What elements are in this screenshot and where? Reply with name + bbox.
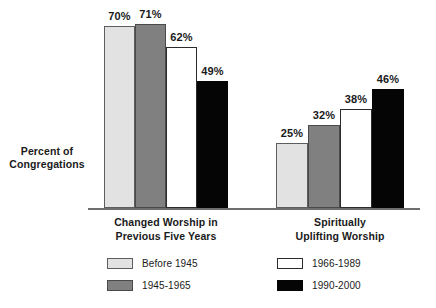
legend-label: 1990-2000 [312, 280, 361, 291]
bar-value-label: 46% [366, 73, 410, 85]
legend-item-1990-2000: 1990-2000 [277, 280, 361, 291]
group-label-1: Changed Worship inPrevious Five Years [81, 216, 251, 243]
bar-2-1945-1965 [308, 125, 340, 208]
y-axis-label-line-1: Percent of [8, 145, 86, 158]
group-label-line-1: Spiritually [255, 216, 425, 230]
y-axis-label: Percent of Congregations [8, 145, 86, 171]
legend-item-1966-1989: 1966-1989 [277, 258, 361, 269]
bar-1-1945-1965 [135, 24, 166, 208]
group-label-2: SpirituallyUplifting Worship [255, 216, 425, 243]
bar-2-1966-1989 [340, 109, 372, 208]
legend-swatch-icon [107, 258, 133, 269]
bar-1-before-1945 [104, 26, 135, 208]
legend-swatch-icon [107, 280, 133, 291]
legend-label: Before 1945 [142, 258, 198, 269]
group-label-line-1: Changed Worship in [81, 216, 251, 230]
group-label-line-2: Previous Five Years [81, 230, 251, 244]
bar-chart: Percent of Congregations 70%71%62%49%25%… [0, 0, 436, 308]
bar-2-before-1945 [276, 143, 308, 208]
bar-2-1990-2000 [372, 89, 404, 208]
bar-1-1990-2000 [197, 81, 228, 208]
legend-label: 1945-1965 [142, 280, 191, 291]
bar-value-label: 71% [129, 8, 172, 20]
y-axis-label-line-2: Congregations [8, 158, 86, 171]
bar-value-label: 62% [160, 31, 203, 43]
legend: Before 19451945-19651966-19891990-2000 [107, 258, 397, 302]
legend-swatch-icon [277, 280, 303, 291]
group-label-line-2: Uplifting Worship [255, 230, 425, 244]
legend-item-1945-1965: 1945-1965 [107, 280, 191, 291]
legend-item-before-1945: Before 1945 [107, 258, 198, 269]
legend-label: 1966-1989 [312, 258, 361, 269]
category-axis-line [88, 208, 420, 210]
legend-swatch-icon [277, 258, 303, 269]
bar-value-label: 49% [191, 65, 234, 77]
